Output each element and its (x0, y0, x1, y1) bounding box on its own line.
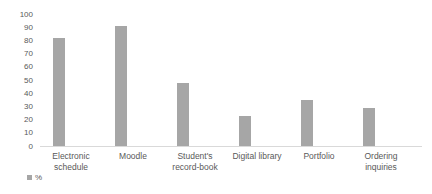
category-label: Digital library (226, 151, 288, 162)
bar (239, 116, 251, 146)
category-label: Electronic schedule (40, 151, 102, 173)
legend: % (27, 173, 42, 182)
y-tick-label: 50 (0, 76, 33, 85)
category-label: Ordering inquiries (350, 151, 412, 173)
y-tick-label: 0 (0, 142, 33, 151)
bar (53, 38, 65, 146)
legend-label: % (35, 173, 42, 182)
bar-chart-figure: 0102030405060708090100 Electronic schedu… (0, 0, 432, 194)
bar (363, 108, 375, 146)
y-tick-label: 100 (0, 10, 33, 19)
category-label: Moodle (102, 151, 164, 162)
y-tick-label: 10 (0, 128, 33, 137)
y-tick-label: 40 (0, 89, 33, 98)
bar (301, 100, 313, 146)
bar-chart-plot: 0102030405060708090100 Electronic schedu… (0, 0, 432, 194)
y-tick-label: 90 (0, 23, 33, 32)
bar (177, 83, 189, 146)
y-tick-label: 60 (0, 62, 33, 71)
category-label: Portfolio (288, 151, 350, 162)
y-tick-label: 30 (0, 102, 33, 111)
x-axis-line (40, 146, 422, 147)
bar (115, 26, 127, 146)
y-tick-label: 70 (0, 49, 33, 58)
category-label: Student's record-book (164, 151, 226, 173)
legend-swatch-icon (27, 175, 32, 180)
y-tick-label: 80 (0, 36, 33, 45)
y-tick-label: 20 (0, 115, 33, 124)
